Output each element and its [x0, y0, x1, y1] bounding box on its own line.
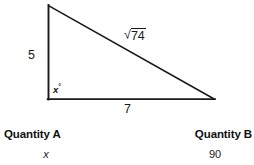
quantity-b-header: Quantity B	[195, 124, 252, 145]
quantitative-comparison: Quantity A Quantity B x 90	[0, 124, 254, 165]
side-label-horizontal: 7	[124, 103, 131, 116]
comparison-header-row: Quantity A Quantity B	[0, 124, 254, 145]
quantity-a-header: Quantity A	[4, 124, 61, 145]
quantity-a-value: x	[0, 145, 92, 164]
comparison-value-row: x 90	[0, 145, 254, 165]
angle-label-x-degrees: x°	[53, 85, 61, 95]
degree-symbol-icon: °	[58, 83, 61, 90]
side-label-vertical: 5	[28, 49, 35, 62]
quantity-b-value: 90	[176, 145, 254, 164]
triangle-figure: 5 7 x° √74	[0, 0, 254, 120]
triangle-side-hypotenuse	[49, 6, 215, 100]
radicand-value: 74	[131, 28, 146, 43]
radical-sign-icon: √	[124, 29, 131, 42]
side-label-hypotenuse: √74	[124, 28, 146, 43]
